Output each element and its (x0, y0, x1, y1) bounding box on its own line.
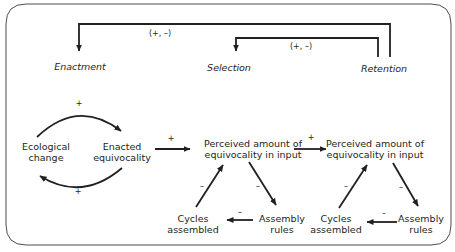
node-cycles-assembled-1: Cyclesassembled (167, 213, 218, 235)
sign-t2-cycles-to-perceived: – (344, 183, 348, 191)
t1-arrow-perceived-to-rules (249, 162, 276, 205)
node-assembly-rules-2: Assemblyrules (398, 213, 444, 235)
sign-t2-perceived-to-rules: – (399, 184, 403, 192)
feedback-label-outer: (+, –) (149, 30, 171, 38)
sign-t2-rules-to-cycles: – (382, 210, 386, 218)
loop-arc-top (37, 116, 121, 137)
node-perceived-equivocality-1: Perceived amount ofequivocality in input (204, 138, 302, 160)
stage-selection: Selection (207, 62, 251, 73)
sign-perceived-to-perceived: + (308, 134, 315, 142)
loop-arc-bottom (40, 168, 122, 187)
node-perceived-equivocality-2: Perceived amount ofequivocality in input (326, 138, 424, 160)
node-ecological-change: Ecologicalchange (22, 141, 70, 163)
sign-t1-rules-to-cycles: – (238, 209, 242, 217)
node-cycles-assembled-2: Cyclesassembled (310, 213, 361, 235)
sign-t1-perceived-to-rules: – (256, 183, 260, 191)
sign-t1-cycles-to-perceived: – (200, 183, 204, 191)
sign-enacted-to-perceived: + (168, 135, 175, 143)
node-enacted-equivocality: Enactedequivocality (93, 141, 151, 163)
stage-enactment: Enactment (54, 61, 106, 72)
t2-arrow-perceived-to-rules (393, 163, 418, 206)
stage-retention: Retention (361, 63, 407, 74)
feedback-label-inner: (+, –) (290, 43, 312, 51)
sign-loop-bottom: + (75, 188, 82, 196)
sign-loop-top: + (76, 100, 83, 108)
diagram-canvas (0, 0, 455, 252)
node-assembly-rules-1: Assemblyrules (259, 213, 305, 235)
feedback-retention-enactment (79, 24, 390, 57)
